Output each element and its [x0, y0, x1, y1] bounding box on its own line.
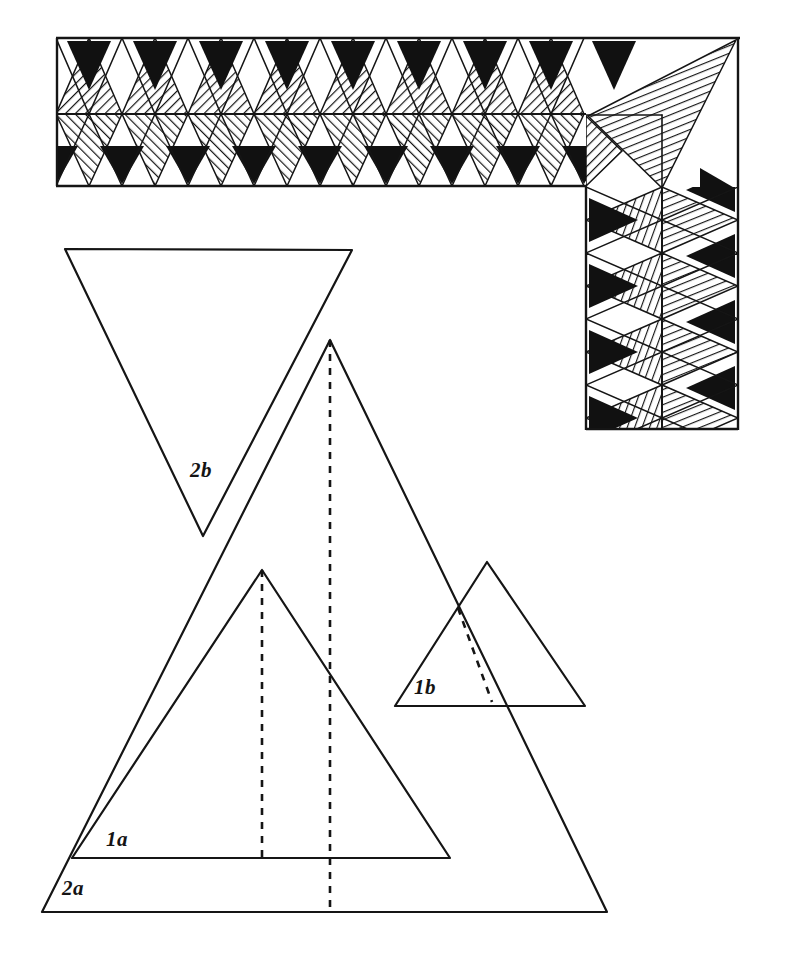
triangle-2a-label: 2a — [61, 876, 84, 900]
construction-triangle-1b: 1b — [395, 562, 585, 706]
triangle-1b-label: 1b — [414, 675, 436, 699]
border-corner-block — [586, 40, 738, 212]
border-right-column — [662, 168, 738, 451]
construction-triangle-1a: 1a — [72, 570, 450, 858]
figure-root: 2b 2a 1a 1b — [0, 0, 786, 955]
border-bottom-row — [34, 114, 606, 186]
border-horizontal-band — [34, 38, 606, 186]
border-top-row — [56, 38, 584, 114]
border-left-column — [586, 187, 662, 451]
hatched-triangle-group-top — [56, 38, 584, 114]
triangle-2b-label: 2b — [189, 458, 212, 482]
corner-black-triangle-top — [592, 41, 636, 90]
triangle-1b-fold-line — [458, 608, 492, 702]
black-triangle-group-bottom — [34, 146, 606, 184]
border-vertical-band — [586, 168, 738, 451]
triangle-2b-outline — [65, 249, 352, 536]
diagram-canvas: 2b 2a 1a 1b — [0, 0, 786, 955]
triangle-1a-label: 1a — [106, 827, 128, 851]
construction-triangle-2b: 2b — [65, 249, 352, 536]
